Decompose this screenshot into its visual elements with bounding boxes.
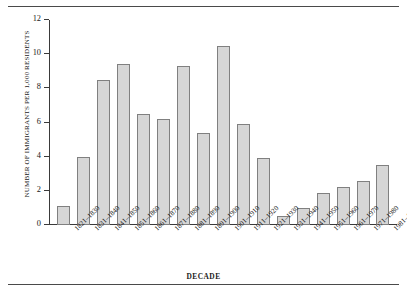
y-axis-tick: 6 <box>44 122 49 123</box>
bar-series <box>50 20 397 225</box>
x-axis-tick-label: 1881–1890 <box>193 227 199 233</box>
y-axis-tick: 0 <box>44 224 49 225</box>
y-axis-tick-label: 0 <box>37 219 41 228</box>
x-axis-tick-label: 1931–1940 <box>292 227 298 233</box>
x-axis-tick-label: 1981–1990 <box>392 227 398 233</box>
bar-slot <box>373 20 393 225</box>
x-axis-tick-label: 1871–1880 <box>173 227 179 233</box>
x-axis-tick-label: 1971–1980 <box>372 227 378 233</box>
bar <box>217 46 230 225</box>
bar-slot <box>353 20 373 225</box>
y-axis-tick: 10 <box>44 53 49 54</box>
chart-figure: NUMBER OF IMMIGRANTS PER 1,000 RESIDENTS… <box>0 0 407 297</box>
y-axis-tick-label: 10 <box>33 48 41 57</box>
x-axis-tick-labels: 1821–18301831–18401841–18501851–18601861… <box>50 227 397 273</box>
bar-slot <box>333 20 353 225</box>
bar-slot <box>94 20 114 225</box>
x-axis-tick-label: 1961–1970 <box>352 227 358 233</box>
y-axis-title: NUMBER OF IMMIGRANTS PER 1,000 RESIDENTS <box>23 9 31 219</box>
y-axis-tick-label: 12 <box>33 14 41 23</box>
bar <box>117 64 130 225</box>
x-axis-tick-label: 1831–1840 <box>93 227 99 233</box>
bar-slot <box>134 20 154 225</box>
bar-slot <box>174 20 194 225</box>
bar-slot <box>74 20 94 225</box>
bar-slot <box>253 20 273 225</box>
top-divider-rule <box>8 6 399 7</box>
bar-slot <box>54 20 74 225</box>
y-axis-tick-label: 2 <box>37 185 41 194</box>
x-axis-title: DECADE <box>0 272 407 281</box>
x-axis-tick-label: 1841–1850 <box>113 227 119 233</box>
x-axis-tick-label: 1911–1920 <box>252 227 258 233</box>
bar-slot <box>313 20 333 225</box>
x-axis-tick-label: 1921–1930 <box>272 227 278 233</box>
y-axis-tick-label: 4 <box>37 151 41 160</box>
x-axis-tick-label: 1951–1960 <box>332 227 338 233</box>
x-axis-tick-label: 1901–1910 <box>233 227 239 233</box>
bar <box>97 80 110 225</box>
bar-slot <box>293 20 313 225</box>
bar-slot <box>214 20 234 225</box>
y-axis-tick-label: 8 <box>37 82 41 91</box>
plot-area: 024681012 <box>49 20 397 225</box>
bar-slot <box>114 20 134 225</box>
y-axis-tick: 12 <box>44 19 49 20</box>
x-axis-tick-label: 1861–1870 <box>153 227 159 233</box>
x-axis-tick-label: 1891–1900 <box>213 227 219 233</box>
x-axis-tick-label: 1941–1950 <box>312 227 318 233</box>
y-axis-tick: 4 <box>44 156 49 157</box>
bar-slot <box>233 20 253 225</box>
bottom-divider-rule <box>8 284 399 285</box>
y-axis-tick: 8 <box>44 87 49 88</box>
y-axis-tick: 2 <box>44 190 49 191</box>
x-axis-tick-label: 1821–1830 <box>73 227 79 233</box>
x-axis-tick-label: 1851–1860 <box>133 227 139 233</box>
bar <box>177 66 190 225</box>
bar <box>57 206 70 225</box>
bar-slot <box>194 20 214 225</box>
bar-slot <box>273 20 293 225</box>
y-axis-tick-label: 6 <box>37 117 41 126</box>
bar-slot <box>154 20 174 225</box>
